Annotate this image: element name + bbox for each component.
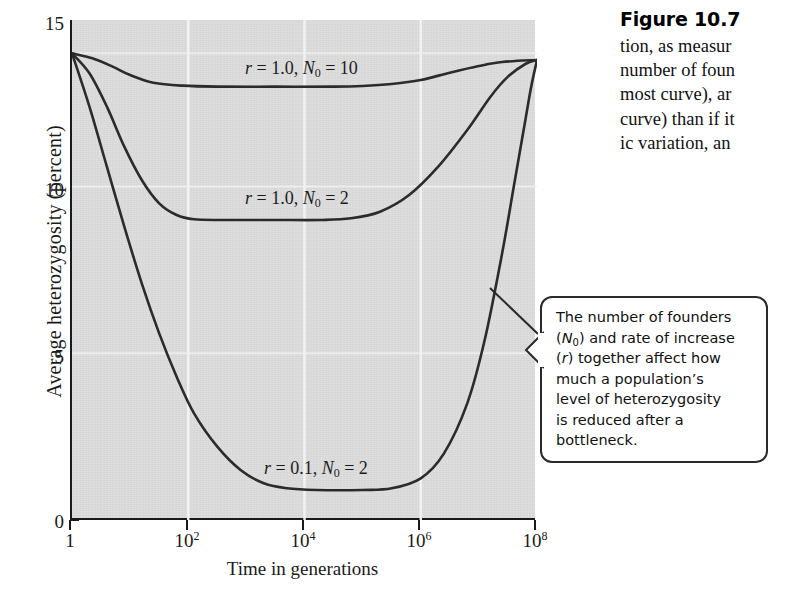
- x-axis-title: Time in generations: [70, 558, 535, 580]
- x-tick-mark-1e4: [302, 520, 304, 530]
- x-tick-label-1e2: 102: [157, 531, 217, 551]
- callout-line-3: (r) together affect how: [556, 348, 754, 369]
- caption-title: Figure 10.7: [620, 8, 786, 30]
- caption-line-3: most curve), ar: [620, 82, 786, 106]
- callout-line-2: (N0) and rate of increase: [556, 328, 754, 349]
- caption-line-2: number of foun: [620, 58, 786, 82]
- x-tick-mark-1e2: [186, 520, 188, 530]
- callout-tail: [522, 330, 544, 370]
- x-tick-mark-1: [69, 520, 71, 530]
- callout-line-6: is reduced after a: [556, 410, 754, 431]
- y-axis-title: Average heterozygosity (percent): [43, 32, 66, 492]
- x-tick-label-1e8: 108: [505, 531, 565, 551]
- callout-box: The number of founders (N0) and rate of …: [540, 296, 768, 463]
- callout-line-4: much a population’s: [556, 369, 754, 390]
- callout-line-7: bottleneck.: [556, 430, 754, 451]
- figure-caption: Figure 10.7 tion, as measur number of fo…: [620, 8, 786, 155]
- caption-body: tion, as measur number of foun most curv…: [620, 34, 786, 155]
- caption-line-5: ic variation, an: [620, 131, 786, 155]
- x-tick-label-1e4: 104: [273, 531, 333, 551]
- callout-line-1: The number of founders: [556, 307, 754, 328]
- x-tick-mark-1e8: [534, 520, 536, 530]
- x-tick-label-1: 1: [40, 531, 100, 551]
- caption-line-1: tion, as measur: [620, 34, 786, 58]
- x-tick-mark-1e6: [418, 520, 420, 530]
- x-tick-label-1e6: 106: [389, 531, 449, 551]
- callout-line-5: level of heterozygosity: [556, 389, 754, 410]
- caption-line-4: curve) than if it: [620, 107, 786, 131]
